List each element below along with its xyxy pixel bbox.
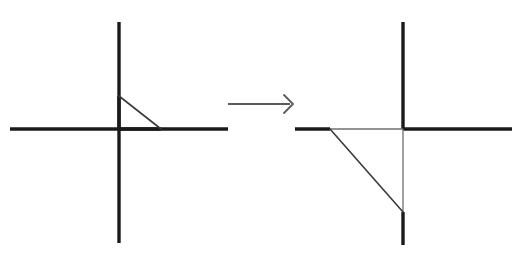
geometry-figure: Right triangle reflected through the ori… <box>0 0 527 267</box>
canvas-background <box>0 0 527 267</box>
figure-canvas <box>0 0 527 267</box>
